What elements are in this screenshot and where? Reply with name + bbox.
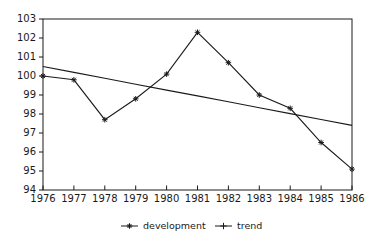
- y-tick-label: 97: [23, 127, 36, 138]
- x-tick-label: 1977: [61, 193, 86, 204]
- data-point-marker-development: [40, 73, 46, 79]
- data-point-marker-development: [133, 96, 139, 102]
- x-tick-label: 1976: [30, 193, 55, 204]
- x-tick-label: 1980: [154, 193, 179, 204]
- legend-label: development: [143, 220, 206, 231]
- series-line-trend: [43, 67, 352, 126]
- y-tick-label: 99: [23, 89, 36, 100]
- x-tick-label: 1979: [123, 193, 148, 204]
- y-tick-label: 98: [23, 108, 36, 119]
- y-tick-label: 96: [23, 146, 36, 157]
- data-point-marker-development: [164, 71, 170, 77]
- x-tick-label: 1978: [92, 193, 117, 204]
- legend-item-development: development: [121, 220, 206, 231]
- x-tick-label: 1983: [247, 193, 272, 204]
- legend-plus-icon: [220, 223, 226, 229]
- y-tick-label: 102: [17, 32, 36, 43]
- y-tick-label: 101: [17, 51, 36, 62]
- data-point-marker-development: [287, 106, 293, 112]
- chart-figure: 9495969798991001011021031976197719781979…: [0, 0, 379, 246]
- data-point-marker-development: [318, 140, 324, 146]
- legend-star-icon: [127, 223, 133, 229]
- legend-label: trend: [237, 220, 262, 231]
- legend-item-trend: trend: [215, 220, 262, 231]
- data-point-marker-development: [71, 77, 77, 83]
- y-tick-label: 103: [17, 13, 36, 24]
- data-point-marker-development: [226, 60, 232, 66]
- series-line-development: [43, 32, 352, 169]
- data-point-marker-development: [349, 166, 355, 172]
- x-tick-label: 1982: [216, 193, 241, 204]
- x-tick-label: 1986: [339, 193, 364, 204]
- y-tick-label: 100: [17, 70, 36, 81]
- plot-frame: [43, 19, 352, 190]
- x-tick-label: 1985: [308, 193, 333, 204]
- data-point-marker-development: [195, 30, 201, 36]
- x-tick-label: 1981: [185, 193, 210, 204]
- data-point-marker-development: [102, 117, 108, 123]
- y-tick-label: 95: [23, 165, 36, 176]
- x-tick-label: 1984: [277, 193, 302, 204]
- line-chart: 9495969798991001011021031976197719781979…: [0, 0, 379, 246]
- data-point-marker-development: [257, 92, 263, 98]
